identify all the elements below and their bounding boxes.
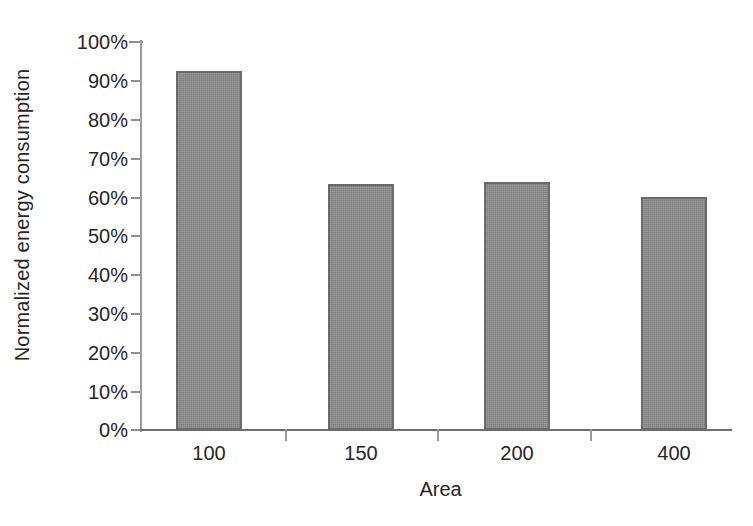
bar-200	[484, 182, 550, 430]
y-tick-label-10: 10%	[44, 382, 128, 402]
y-axis-line	[140, 40, 142, 432]
y-tick-label-60: 60%	[44, 188, 128, 208]
x-tick-label-400: 400	[614, 441, 734, 465]
bar-400	[641, 197, 707, 430]
x-axis-title-container: Area	[0, 478, 753, 501]
bar-chart-figure: Normalized energy consumption 100% 90% 8…	[0, 0, 753, 526]
bar-150	[328, 184, 394, 430]
x-tick-label-200: 200	[457, 441, 577, 465]
y-tick-label-70: 70%	[44, 149, 128, 169]
y-tick-label-90: 90%	[44, 71, 128, 91]
x-tick-label-100: 100	[149, 441, 269, 465]
y-tick-label-50: 50%	[44, 226, 128, 246]
x-axis-title: Area	[419, 478, 461, 501]
y-tick-label-0: 0%	[44, 420, 128, 440]
x-tick-label-150: 150	[301, 441, 421, 465]
y-tick-label-40: 40%	[44, 265, 128, 285]
y-tick-label-80: 80%	[44, 110, 128, 130]
x-tick-mark-3	[590, 429, 592, 441]
y-axis-title: Normalized energy consumption	[0, 0, 44, 430]
x-tick-mark-1	[285, 429, 287, 441]
y-axis-tick-labels: 100% 90% 80% 70% 60% 50% 40% 30% 20% 10%…	[44, 0, 128, 526]
y-tick-label-30: 30%	[44, 304, 128, 324]
y-tick-label-20: 20%	[44, 343, 128, 363]
x-tick-mark-2	[437, 429, 439, 441]
y-tick-label-100: 100%	[44, 32, 128, 52]
bar-100	[176, 71, 242, 430]
